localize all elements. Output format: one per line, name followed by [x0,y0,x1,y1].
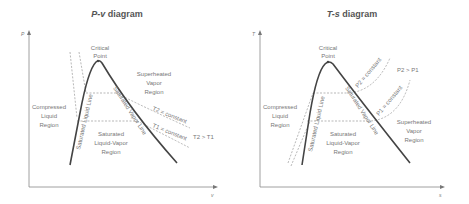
ts-sat-vapor-line-label: Saturated Vapor Line [344,85,380,136]
ts-saturated-label-3: Region [333,149,352,155]
pv-saturated-label-2: Liquid-Vapor [94,140,128,146]
pv-critical-label-2: Point [93,53,107,59]
pv-saturated-label-3: Region [101,149,120,155]
ts-iso-p2-label: P2 = constant [354,56,383,88]
pv-saturated-label-1: Saturated [98,131,124,137]
ts-y-arrow-icon [258,30,262,35]
ts-saturated-label-2: Liquid-Vapor [326,140,360,146]
ts-critical-label-2: Point [321,53,335,59]
ts-superheated-label-2: Vapor [406,128,422,134]
ts-compressed-label-3: Region [270,122,289,128]
pv-sat-vapor-line-label: Saturated Vapor Line [112,85,148,136]
pv-diagram-panel: P-v diagram P v Critical Po [0,0,234,204]
pv-superheated-label-2: Vapor [146,80,162,86]
ts-compressed-label-2: Liquid [272,113,288,119]
ts-sat-liquid-line-label: Saturated Liquid Line [307,95,326,152]
pv-y-axis-label: P [21,31,25,37]
pv-x-arrow-icon [213,185,218,189]
ts-x-arrow-icon [440,185,445,189]
pv-axes [29,33,215,187]
ts-relation-label: P2 > P1 [397,67,419,73]
pv-relation-label: T2 > T1 [193,134,214,140]
ts-diagram-panel: T-s diagram T s Critical Point Superheat… [235,0,469,204]
pv-compressed-label-1: Compressed [32,104,66,110]
ts-x-axis-label: s [439,192,442,198]
pv-critical-label-1: Critical [91,45,109,51]
ts-axes [260,33,442,187]
ts-superheated-label-1: Superheated [397,119,431,125]
pv-compressed-label-3: Region [39,122,58,128]
ts-critical-point-dot [327,61,329,63]
pv-superheated-label-3: Region [144,89,163,95]
pv-critical-point-dot [97,60,99,62]
ts-compressed-label-1: Compressed [263,104,297,110]
ts-critical-label-1: Critical [319,45,337,51]
ts-y-axis-label: T [252,31,256,37]
pv-diagram-svg: P v Critical Point Superheated Vapor Reg… [0,0,234,204]
pv-y-arrow-icon [27,30,31,35]
ts-diagram-svg: T s Critical Point Superheated Vapor Reg… [235,0,469,204]
ts-iso-p1-label: P1 = constant [375,84,404,116]
pv-iso-t2-label: T2 = constant [152,105,188,124]
pv-superheated-label-1: Superheated [137,71,171,77]
ts-saturated-label-1: Saturated [330,131,356,137]
ts-superheated-label-3: Region [404,137,423,143]
pv-x-axis-label: v [211,192,214,198]
pv-compressed-label-2: Liquid [41,113,57,119]
